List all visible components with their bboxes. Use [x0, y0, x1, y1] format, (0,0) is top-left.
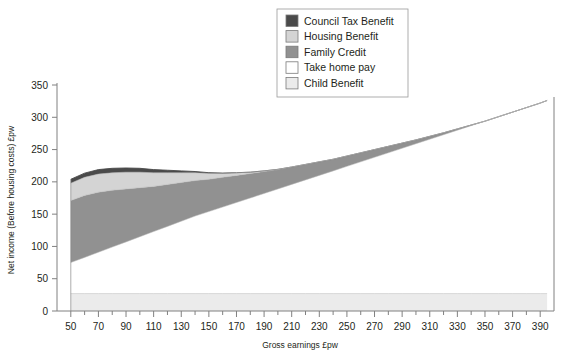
x-tick-label: 290 [394, 321, 411, 332]
legend-label-child-benefit: Child Benefit [304, 77, 364, 89]
plot-area-series [71, 100, 547, 311]
x-axis-title: Gross earnings £pw [262, 340, 338, 350]
legend-swatch-family-credit [286, 46, 298, 58]
x-axis-tick-labels: 5070901101301501701902102302502702903103… [65, 321, 549, 332]
x-tick-label: 230 [311, 321, 328, 332]
legend-swatch-housing-benefit [286, 31, 298, 42]
y-axis-tick-labels: 050100150200250300350 [31, 80, 48, 317]
x-axis-ticks [71, 311, 540, 317]
y-axis-title: Net income (Before housing costs) £pw [6, 125, 16, 274]
x-tick-label: 390 [532, 321, 549, 332]
x-tick-label: 190 [256, 321, 273, 332]
legend-swatch-council-tax-benefit [286, 15, 298, 27]
x-tick-label: 270 [366, 321, 383, 332]
y-tick-label: 0 [42, 306, 48, 317]
net-income-stacked-area-chart: 5070901101301501701902102302502702903103… [0, 0, 585, 362]
legend-label-family-credit: Family Credit [304, 46, 366, 58]
y-tick-label: 350 [31, 80, 48, 91]
chart-container: 5070901101301501701902102302502702903103… [0, 0, 585, 362]
y-tick-label: 150 [31, 209, 48, 220]
legend-label-council-tax-benefit: Council Tax Benefit [304, 15, 394, 27]
area-series-child-benefit [71, 294, 547, 311]
y-tick-label: 100 [31, 241, 48, 252]
legend-label-take-home-pay: Take home pay [304, 61, 376, 73]
y-tick-label: 300 [31, 112, 48, 123]
legend-swatch-take-home-pay [286, 62, 298, 74]
x-tick-label: 110 [146, 321, 162, 332]
y-tick-label: 250 [31, 144, 48, 155]
legend-label-housing-benefit: Housing Benefit [304, 30, 378, 42]
x-tick-label: 170 [228, 321, 245, 332]
x-tick-label: 50 [65, 321, 77, 332]
x-tick-label: 330 [449, 321, 466, 332]
x-tick-label: 210 [283, 321, 300, 332]
x-tick-label: 70 [93, 321, 105, 332]
chart-legend: Council Tax BenefitHousing BenefitFamily… [277, 9, 408, 97]
y-tick-label: 50 [37, 273, 49, 284]
legend-swatch-child-benefit [286, 77, 298, 89]
x-tick-label: 130 [173, 321, 190, 332]
x-tick-label: 310 [421, 321, 438, 332]
x-tick-label: 150 [201, 321, 218, 332]
y-tick-label: 200 [31, 176, 48, 187]
x-tick-label: 90 [120, 321, 132, 332]
x-tick-label: 370 [504, 321, 521, 332]
x-tick-label: 250 [339, 321, 356, 332]
x-tick-label: 350 [477, 321, 494, 332]
y-axis-ticks [52, 85, 57, 311]
